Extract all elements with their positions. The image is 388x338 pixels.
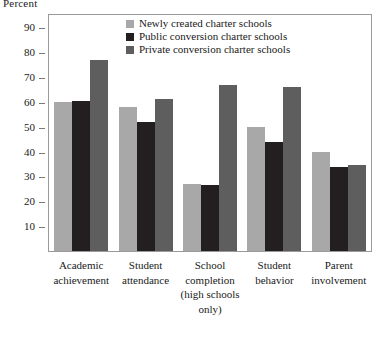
y-axis-tick-mark bbox=[39, 227, 45, 228]
legend-item[interactable]: Public conversion charter schools bbox=[126, 30, 326, 43]
y-axis-tick-label: 30 bbox=[24, 169, 35, 184]
bar[interactable] bbox=[155, 99, 173, 251]
y-axis-tick-mark bbox=[39, 177, 45, 178]
bar[interactable] bbox=[119, 107, 137, 251]
bar[interactable] bbox=[247, 127, 265, 251]
y-axis-tick-mark bbox=[39, 53, 45, 54]
y-axis-tick-mark bbox=[39, 202, 45, 203]
bar[interactable] bbox=[54, 102, 72, 251]
bar[interactable] bbox=[219, 85, 237, 251]
bar[interactable] bbox=[330, 167, 348, 251]
bar[interactable] bbox=[90, 60, 108, 251]
legend-label: Newly created charter schools bbox=[139, 17, 272, 30]
y-axis-tick-label: 90 bbox=[24, 20, 35, 35]
y-axis-tick-mark bbox=[39, 28, 45, 29]
bar[interactable] bbox=[265, 142, 283, 251]
bar[interactable] bbox=[201, 185, 219, 251]
legend-item[interactable]: Private conversion charter schools bbox=[126, 43, 326, 56]
legend-label: Private conversion charter schools bbox=[139, 43, 290, 56]
legend-swatch-icon bbox=[126, 46, 134, 54]
legend-label: Public conversion charter schools bbox=[139, 30, 287, 43]
y-axis-tick-label: 50 bbox=[24, 120, 35, 135]
y-axis-tick-mark bbox=[39, 78, 45, 79]
y-axis-tick-label: 10 bbox=[24, 219, 35, 234]
x-axis-category-labels: Academic achievementStudent attendanceSc… bbox=[49, 258, 371, 338]
bar[interactable] bbox=[137, 122, 155, 251]
bar[interactable] bbox=[183, 184, 201, 251]
y-axis-tick-label: 20 bbox=[24, 194, 35, 209]
y-axis-tick-label: 60 bbox=[24, 95, 35, 110]
y-axis-tick-label: 40 bbox=[24, 145, 35, 160]
legend-swatch-icon bbox=[126, 33, 134, 41]
bar[interactable] bbox=[312, 152, 330, 251]
y-axis-tick-label: 80 bbox=[24, 45, 35, 60]
y-axis: 102030405060708090 bbox=[0, 0, 48, 338]
y-axis-tick-label: 70 bbox=[24, 70, 35, 85]
y-axis-tick-mark bbox=[39, 128, 45, 129]
y-axis-tick-mark bbox=[39, 153, 45, 154]
legend-item[interactable]: Newly created charter schools bbox=[126, 17, 326, 30]
bar[interactable] bbox=[348, 165, 366, 251]
legend-swatch-icon bbox=[126, 20, 134, 28]
bar-group bbox=[54, 15, 108, 251]
y-axis-tick-mark bbox=[39, 103, 45, 104]
bar[interactable] bbox=[72, 101, 90, 251]
x-axis-category-label: Parent involvement bbox=[299, 258, 379, 287]
chart-legend: Newly created charter schoolsPublic conv… bbox=[126, 17, 326, 56]
bar[interactable] bbox=[283, 87, 301, 251]
